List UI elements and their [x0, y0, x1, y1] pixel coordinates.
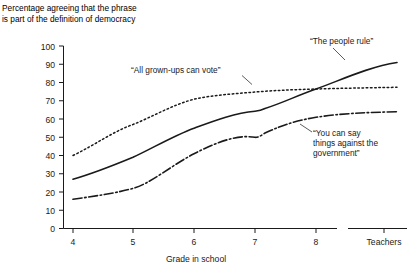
x-axis-label: Grade in school — [166, 254, 226, 264]
x-tick-teachers: Teachers — [367, 237, 402, 247]
chart-figure: Percentage agreeing that the phrase is p… — [0, 0, 408, 277]
x-axis: 4 5 6 7 8 Teachers Grade in school — [64, 229, 408, 265]
annotation-you-can-say-things-against-the-government: “You can say things against the governme… — [300, 124, 378, 158]
y-axis-ticks — [59, 46, 64, 229]
y-tick-70: 70 — [45, 96, 55, 106]
y-tick-80: 80 — [45, 78, 55, 88]
x-tick-grade-7: 7 — [253, 237, 258, 247]
y-tick-100: 100 — [41, 42, 56, 52]
annotation-all-grown-ups-can-vote: “All grown-ups can vote” — [131, 65, 252, 85]
y-tick-10: 10 — [45, 206, 55, 216]
chart-title-line-2: is part of the definition of democracy — [2, 14, 136, 24]
annotation-the-people-rule-leader-line — [333, 48, 345, 60]
y-tick-0: 0 — [50, 224, 55, 234]
x-axis-ticks — [73, 229, 384, 234]
chart-title-line-1: Percentage agreeing that the phrase — [2, 3, 137, 13]
x-tick-grade-8: 8 — [314, 237, 319, 247]
y-axis: 100 90 80 70 60 50 40 30 20 10 0 — [41, 42, 64, 235]
annotation-government-label-line-2: things against the — [313, 138, 378, 148]
series-line-the-people-rule — [73, 63, 397, 180]
annotation-government-label-line-1: “You can say — [313, 128, 362, 138]
x-tick-grade-5: 5 — [131, 237, 136, 247]
annotation-all-grown-ups-can-vote-label: “All grown-ups can vote” — [131, 65, 221, 75]
y-tick-30: 30 — [45, 169, 55, 179]
y-tick-40: 40 — [45, 151, 55, 161]
y-tick-60: 60 — [45, 115, 55, 125]
democracy-definition-line-chart: Percentage agreeing that the phrase is p… — [0, 0, 408, 277]
annotation-the-people-rule-label: “The people rule” — [310, 36, 373, 46]
y-tick-20: 20 — [45, 188, 55, 198]
annotation-government-label-line-3: government” — [313, 148, 360, 158]
x-tick-grade-4: 4 — [71, 237, 76, 247]
annotation-the-people-rule: “The people rule” — [310, 36, 373, 60]
x-tick-grade-6: 6 — [192, 237, 197, 247]
y-tick-50: 50 — [45, 133, 55, 143]
y-tick-90: 90 — [45, 60, 55, 70]
annotation-all-grown-ups-can-vote-leader-line — [242, 76, 252, 85]
annotation-government-leader-line — [300, 124, 312, 132]
y-axis-tick-labels: 100 90 80 70 60 50 40 30 20 10 0 — [41, 42, 56, 235]
x-axis-tick-labels: 4 5 6 7 8 Teachers — [71, 237, 402, 247]
